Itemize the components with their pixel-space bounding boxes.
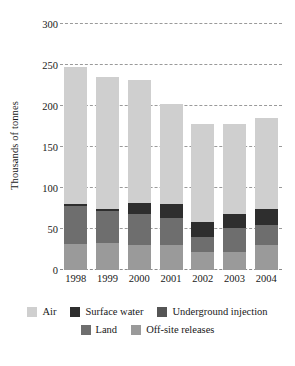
x-tick-label-2001: 2001 [161,273,182,284]
legend-item-air[interactable]: Air [27,306,56,317]
y-axis-title-text: Thousands of tonnes [9,101,20,190]
legend-swatch-off-site-releases [131,325,141,335]
plot-area [60,24,282,270]
x-tick-label-2003: 2003 [224,273,245,284]
bar-segment-off-site-releases-2000[interactable] [128,245,151,270]
bar-segment-off-site-releases-1998[interactable] [64,244,87,270]
bar-segment-land-1999[interactable] [96,211,119,243]
legend-label-underground-injection: Underground injection [172,306,267,317]
bar-segment-air-1998[interactable] [64,67,87,205]
bar-segment-surface-water-2004[interactable] [255,209,278,225]
bar-segment-land-1998[interactable] [64,206,87,244]
bar-segment-off-site-releases-2002[interactable] [191,252,214,270]
bar-2000[interactable] [128,80,151,270]
y-tick-label-50: 50 [48,224,59,235]
bar-2004[interactable] [255,118,278,270]
bar-segment-land-2004[interactable] [255,225,278,245]
legend-swatch-air [27,307,37,317]
bar-segment-surface-water-2003[interactable] [223,214,246,228]
x-axis-tick-labels: 1998199920002001200220032004 [60,273,282,289]
y-tick-label-150: 150 [42,142,58,153]
legend-label-air: Air [42,306,56,317]
bar-1998[interactable] [64,67,87,270]
stacked-bar-chart: Thousands of tonnes 050100150200250300 1… [0,0,295,366]
bar-segment-off-site-releases-2004[interactable] [255,245,278,270]
y-tick-label-250: 250 [42,60,58,71]
bar-segment-air-2003[interactable] [223,124,246,214]
legend-swatch-land [81,325,91,335]
x-tick-label-2000: 2000 [129,273,150,284]
legend-row-2: LandOff-site releases [0,324,295,335]
legend-swatch-underground-injection [157,307,167,317]
x-tick-label-2002: 2002 [192,273,213,284]
bar-segment-surface-water-2000[interactable] [128,203,151,214]
legend-label-off-site-releases: Off-site releases [146,324,214,335]
y-tick-label-300: 300 [42,19,58,30]
bar-segment-land-2001[interactable] [160,218,183,244]
legend-item-surface-water[interactable]: Surface water [70,306,143,317]
bar-2001[interactable] [160,104,183,270]
bar-segment-land-2000[interactable] [128,214,151,245]
chart-legend: AirSurface waterUnderground injection La… [0,306,295,342]
legend-label-land: Land [96,324,118,335]
bar-segment-air-2001[interactable] [160,104,183,204]
bar-segment-surface-water-2001[interactable] [160,204,183,218]
bar-segment-off-site-releases-2003[interactable] [223,252,246,270]
legend-row-1: AirSurface waterUnderground injection [0,306,295,317]
bar-segment-off-site-releases-2001[interactable] [160,245,183,270]
bar-segment-land-2003[interactable] [223,228,246,252]
y-axis-tick-labels: 050100150200250300 [26,24,58,270]
bar-segment-air-2004[interactable] [255,118,278,209]
bar-2002[interactable] [191,124,214,270]
y-tick-label-100: 100 [42,183,58,194]
x-tick-label-1999: 1999 [97,273,118,284]
y-tick-label-0: 0 [53,265,58,276]
bar-2003[interactable] [223,124,246,270]
bar-segment-land-2002[interactable] [191,237,214,252]
bar-1999[interactable] [96,77,119,270]
legend-item-land[interactable]: Land [81,324,118,335]
x-tick-label-1998: 1998 [65,273,86,284]
bars-container [60,24,282,270]
bar-segment-air-2002[interactable] [191,124,214,222]
y-tick-label-200: 200 [42,101,58,112]
legend-swatch-surface-water [70,307,80,317]
bar-segment-air-2000[interactable] [128,80,151,203]
legend-label-surface-water: Surface water [85,306,143,317]
legend-item-underground-injection[interactable]: Underground injection [157,306,267,317]
bar-segment-air-1999[interactable] [96,77,119,209]
y-axis-title: Thousands of tonnes [2,0,26,290]
bar-segment-surface-water-2002[interactable] [191,222,214,238]
legend-item-off-site-releases[interactable]: Off-site releases [131,324,214,335]
x-tick-label-2004: 2004 [256,273,277,284]
bar-segment-off-site-releases-1999[interactable] [96,243,119,270]
